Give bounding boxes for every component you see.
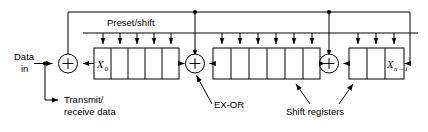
transmit-label-line2: receive data [64, 106, 116, 117]
preset-arrows-right-bank [358, 33, 394, 44]
cell-label-x0: X 0 [96, 59, 109, 73]
exor-leader-line [197, 76, 213, 105]
shift-registers-leader-lines [296, 84, 353, 104]
preset-arrows-left-bank [103, 33, 171, 44]
lfsr-diagram: Preset/shift Data in Transmit/ receive d… [0, 0, 428, 132]
preset-shift-label: Preset/shift [107, 17, 155, 28]
shift-registers-label: Shift registers [286, 106, 344, 117]
x0-symbol: X [96, 59, 104, 70]
adder-middle [186, 54, 205, 73]
preset-arrows-middle-bank [222, 33, 312, 44]
register-bank-right [349, 48, 404, 79]
wiring-layer [34, 10, 418, 104]
exor-label: EX-OR [214, 99, 244, 110]
transmit-receive-tap [45, 64, 58, 101]
data-in-line [34, 62, 53, 66]
register-bank-middle [213, 48, 320, 79]
cell-label-xn: X n – 1 [386, 59, 408, 73]
xn-subscript: n – 1 [394, 65, 408, 73]
transmit-label-line1: Transmit/ [64, 94, 104, 105]
register-bank-left [94, 48, 179, 79]
adder-input [59, 54, 78, 73]
data-in-label-line1: Data [14, 51, 35, 62]
data-in-label-line2: in [21, 63, 28, 74]
xn-symbol: X [386, 59, 394, 70]
x0-subscript: 0 [105, 65, 109, 73]
